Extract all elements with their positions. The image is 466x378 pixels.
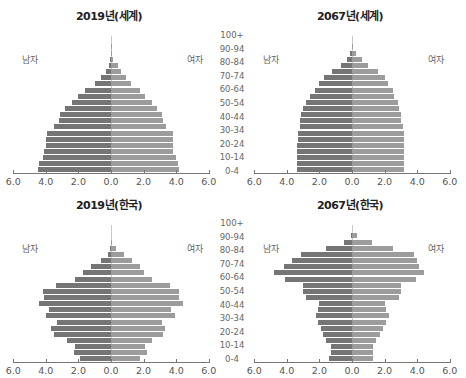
male-bar-10-14 — [331, 344, 352, 349]
female-bar-95-99 — [352, 51, 356, 56]
male-bar-25-29 — [298, 137, 352, 142]
female-bar-100+ — [352, 233, 357, 238]
age-label: 50-54 — [206, 286, 258, 296]
age-label: 0-4 — [206, 354, 258, 364]
female-bar-5-9 — [111, 350, 147, 355]
male-bar-50-54 — [306, 295, 352, 300]
x-tick — [352, 170, 353, 174]
female-bar-30-34 — [111, 320, 162, 325]
age-label: 40-44 — [206, 112, 258, 122]
x-tick-label: 2.0 — [304, 365, 334, 376]
female-bar-25-29 — [111, 326, 165, 331]
female-bar-20-24 — [352, 332, 380, 337]
male-bar-70-74 — [95, 81, 111, 86]
x-tick-label: 0.0 — [337, 176, 367, 187]
female-bar-0-4 — [352, 167, 404, 172]
x-tick-label: 0.0 — [96, 365, 126, 376]
female-bar-65-69 — [352, 88, 393, 93]
x-tick-label: 2.0 — [304, 176, 334, 187]
female-bar-20-24 — [111, 143, 173, 148]
female-bar-10-14 — [111, 155, 176, 160]
female-bar-100+ — [352, 44, 353, 49]
x-tick — [176, 170, 177, 174]
male-bar-45-49 — [319, 301, 352, 306]
female-bar-40-44 — [111, 118, 163, 123]
x-tick-label: 2.0 — [370, 365, 400, 376]
female-bar-20-24 — [111, 332, 163, 337]
bars: 6.04.02.00.02.04.06.0 — [4, 0, 214, 185]
female-bar-0-4 — [111, 167, 179, 172]
x-tick — [46, 359, 47, 363]
female-bar-95-99 — [111, 240, 112, 245]
age-axis-labels-top: 100+90-9480-8470-7460-6450-5440-4430-342… — [206, 30, 258, 180]
x-tick-label: 4.0 — [31, 176, 61, 187]
age-label: 90-94 — [206, 232, 258, 242]
male-bar-5-9 — [331, 350, 352, 355]
female-bar-45-49 — [352, 301, 385, 306]
female-bar-40-44 — [352, 307, 386, 312]
female-bar-55-59 — [352, 289, 401, 294]
male-bar-15-19 — [326, 338, 352, 343]
age-label: 30-34 — [206, 125, 258, 135]
male-bar-55-59 — [43, 289, 111, 294]
x-tick — [385, 359, 386, 363]
age-label: 100+ — [206, 30, 258, 40]
male-bar-85-89 — [341, 63, 352, 68]
female-bar-50-54 — [111, 295, 179, 300]
male-bar-85-89 — [301, 252, 352, 257]
pyramid-2019-korea: 2019년(한국) 남자 여자 6.04.02.00.02.04.06.0 — [4, 189, 214, 374]
female-bar-70-74 — [352, 270, 424, 275]
x-tick-label: 6.0 — [0, 176, 28, 187]
x-tick-label: 2.0 — [129, 365, 159, 376]
male-bar-75-79 — [101, 75, 111, 80]
female-bar-20-24 — [352, 143, 404, 148]
male-bar-65-69 — [315, 88, 352, 93]
female-bar-45-49 — [111, 301, 183, 306]
male-bar-70-74 — [83, 270, 111, 275]
female-bar-70-74 — [111, 270, 144, 275]
male-bar-0-4 — [80, 356, 111, 361]
female-bar-55-59 — [352, 100, 398, 105]
male-bar-0-4 — [329, 356, 352, 361]
x-tick — [319, 359, 320, 363]
female-bar-40-44 — [352, 118, 401, 123]
x-tick — [287, 359, 288, 363]
female-bar-80-84 — [352, 69, 378, 74]
female-bar-90-94 — [352, 57, 362, 62]
male-bar-90-94 — [326, 246, 352, 251]
x-tick-label: 2.0 — [63, 365, 93, 376]
male-bar-70-74 — [319, 81, 352, 86]
age-label: 40-44 — [206, 300, 258, 310]
x-tick — [144, 170, 145, 174]
male-bar-75-79 — [284, 264, 352, 269]
age-label: 20-24 — [206, 139, 258, 149]
age-label: 60-64 — [206, 272, 258, 282]
male-bar-35-39 — [300, 124, 352, 129]
female-bar-55-59 — [111, 100, 152, 105]
male-bar-65-69 — [285, 277, 352, 282]
male-bar-30-34 — [298, 131, 352, 136]
female-bar-75-79 — [111, 75, 126, 80]
age-label: 70-74 — [206, 259, 258, 269]
x-tick — [46, 170, 47, 174]
male-bar-30-34 — [318, 320, 352, 325]
male-bar-80-84 — [292, 258, 352, 263]
female-bar-30-34 — [352, 131, 404, 136]
male-bar-55-59 — [303, 289, 352, 294]
x-tick — [13, 359, 14, 363]
male-bar-10-14 — [297, 155, 352, 160]
age-label: 20-24 — [206, 327, 258, 337]
x-tick — [385, 170, 386, 174]
bars: 6.04.02.00.02.04.06.0 — [4, 189, 214, 374]
x-tick — [144, 359, 145, 363]
x-tick — [287, 170, 288, 174]
male-bar-20-24 — [46, 143, 111, 148]
male-bar-70-74 — [274, 270, 352, 275]
x-tick-label: 6.0 — [0, 365, 28, 376]
male-bar-25-29 — [46, 137, 111, 142]
male-bar-45-49 — [301, 112, 352, 117]
x-tick-label: 0.0 — [337, 365, 367, 376]
male-bar-30-34 — [47, 131, 111, 136]
female-bar-85-89 — [352, 63, 368, 68]
age-label: 100+ — [206, 218, 258, 228]
